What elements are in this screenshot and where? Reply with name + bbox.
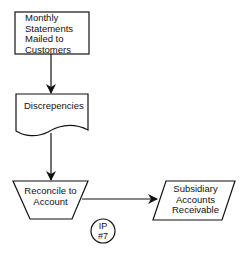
label-connector: IP #7 — [91, 221, 115, 241]
label-reconcile: Reconcile to Account — [13, 186, 88, 207]
label-line: #7 — [91, 231, 115, 241]
label-line: Customers — [25, 45, 73, 56]
label-line: Monthly — [25, 13, 73, 24]
label-subsidiary: Subsidiary Accounts Receivable — [158, 184, 233, 216]
label-line: Mailed to — [25, 34, 73, 45]
label-line: Receivable — [158, 205, 233, 216]
label-line: Reconcile to — [13, 186, 88, 197]
label-discrepencies: Discrepencies — [24, 101, 84, 112]
label-monthly-statements: Monthly Statements Mailed to Customers — [25, 13, 73, 55]
label-line: Account — [13, 197, 88, 208]
label-line: Subsidiary — [158, 184, 233, 195]
label-line: IP — [91, 221, 115, 231]
